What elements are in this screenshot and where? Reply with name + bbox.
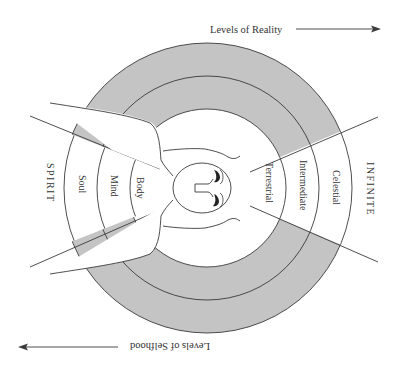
- levels-of-reality-label: Levels of Reality: [210, 24, 283, 35]
- left-arrow-icon: [18, 344, 118, 351]
- selfhood-reality-diagram: SPIRIT Soul Mind Body Terrestrial Interm…: [0, 0, 402, 373]
- spirit-label: SPIRIT: [45, 163, 56, 203]
- levels-of-selfhood-label: Levels of Selfhood: [129, 341, 210, 352]
- reality-level-terrestrial: Terrestrial: [264, 162, 275, 203]
- reality-level-intermediate: Intermediate: [298, 160, 309, 211]
- infinite-label: INFINITE: [365, 162, 376, 216]
- self-level-body: Body: [135, 177, 146, 199]
- right-arrow-icon: [296, 26, 381, 33]
- self-level-soul: Soul: [77, 175, 88, 194]
- reality-level-celestial: Celestial: [331, 170, 342, 205]
- face: [173, 163, 231, 213]
- self-level-mind: Mind: [109, 175, 120, 197]
